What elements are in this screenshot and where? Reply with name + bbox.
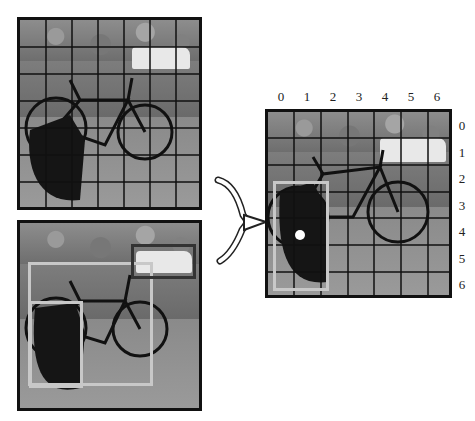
row-label: 5 (452, 251, 472, 267)
row-label: 6 (452, 277, 472, 293)
column-label: 2 (323, 89, 343, 105)
car-bounding-box (131, 244, 196, 279)
row-label: 4 (452, 224, 472, 240)
column-label: 1 (297, 89, 317, 105)
bbox-prediction-panel (17, 220, 202, 411)
row-label: 2 (452, 171, 472, 187)
responsible-cell-panel (265, 109, 452, 298)
merge-arrow-icon (208, 175, 268, 265)
column-label: 3 (349, 89, 369, 105)
row-label: 3 (452, 198, 472, 214)
column-label: 5 (401, 89, 421, 105)
grid-overlay (20, 20, 202, 210)
column-label: 4 (375, 89, 395, 105)
object-center-dot (295, 230, 305, 240)
dog-bounding-box (29, 301, 83, 388)
row-label: 0 (452, 118, 472, 134)
row-label: 1 (452, 145, 472, 161)
column-label: 6 (427, 89, 447, 105)
column-label: 0 (271, 89, 291, 105)
grid-image-panel (17, 17, 202, 210)
